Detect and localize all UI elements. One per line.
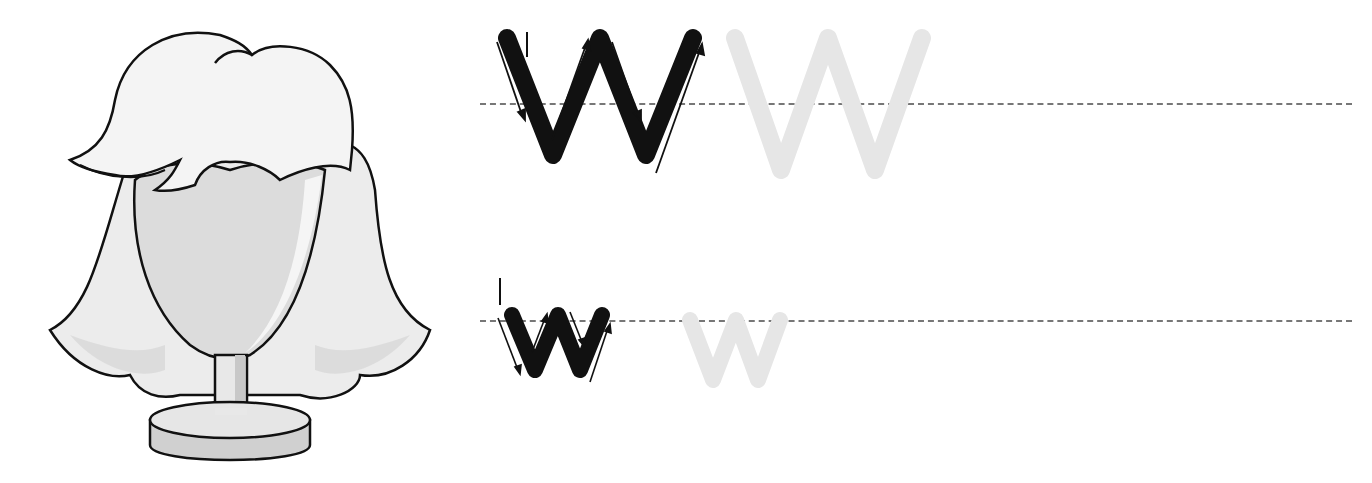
lowercase-w-model bbox=[490, 270, 640, 390]
lowercase-letter-label: w bbox=[480, 270, 481, 271]
uppercase-w-trace[interactable] bbox=[715, 20, 955, 190]
lowercase-practice-row: w bbox=[480, 270, 1372, 400]
uppercase-w-model bbox=[480, 20, 720, 190]
wig-illustration: wig on mannequin stand bbox=[30, 10, 450, 470]
lowercase-w-trace[interactable] bbox=[678, 270, 828, 390]
uppercase-practice-row: W bbox=[480, 20, 1372, 200]
wig-icon bbox=[30, 10, 450, 470]
